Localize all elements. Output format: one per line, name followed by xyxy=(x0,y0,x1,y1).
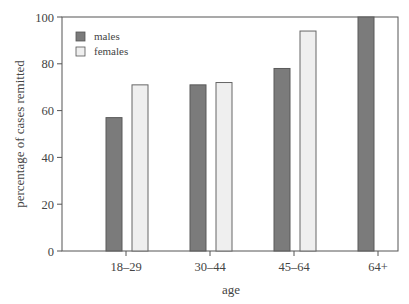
bars xyxy=(106,17,374,251)
bar-males-1 xyxy=(190,85,206,251)
legend-label-males: males xyxy=(94,30,120,42)
x-tick-label: 45–64 xyxy=(278,260,310,274)
legend: males females xyxy=(76,30,128,57)
bar-males-2 xyxy=(274,68,290,251)
x-axis: 18–2930–4445–6464+ xyxy=(110,251,387,274)
legend-swatch-females xyxy=(76,47,85,56)
x-tick-label: 30–44 xyxy=(194,260,226,274)
bar-males-0 xyxy=(106,118,122,251)
legend-swatch-males xyxy=(76,32,85,41)
y-axis-title: percentage of cases remitted xyxy=(12,60,27,208)
y-tick-label: 40 xyxy=(42,151,55,165)
y-tick-label: 20 xyxy=(42,198,55,212)
bar-females-2 xyxy=(300,31,316,251)
legend-label-females: females xyxy=(94,45,128,57)
bar-females-0 xyxy=(132,85,148,251)
y-axis: 020406080100 xyxy=(35,11,62,259)
bar-males-3 xyxy=(358,17,374,251)
y-tick-label: 100 xyxy=(35,11,54,25)
y-tick-label: 0 xyxy=(48,245,54,259)
bar-females-1 xyxy=(216,83,232,251)
x-axis-title: age xyxy=(222,282,240,297)
x-tick-label: 18–29 xyxy=(110,260,141,274)
x-tick-label: 64+ xyxy=(368,260,388,274)
y-tick-label: 60 xyxy=(42,104,55,118)
bar-chart: 020406080100 18–2930–4445–6464+ males fe… xyxy=(0,0,409,304)
y-tick-label: 80 xyxy=(42,57,55,71)
